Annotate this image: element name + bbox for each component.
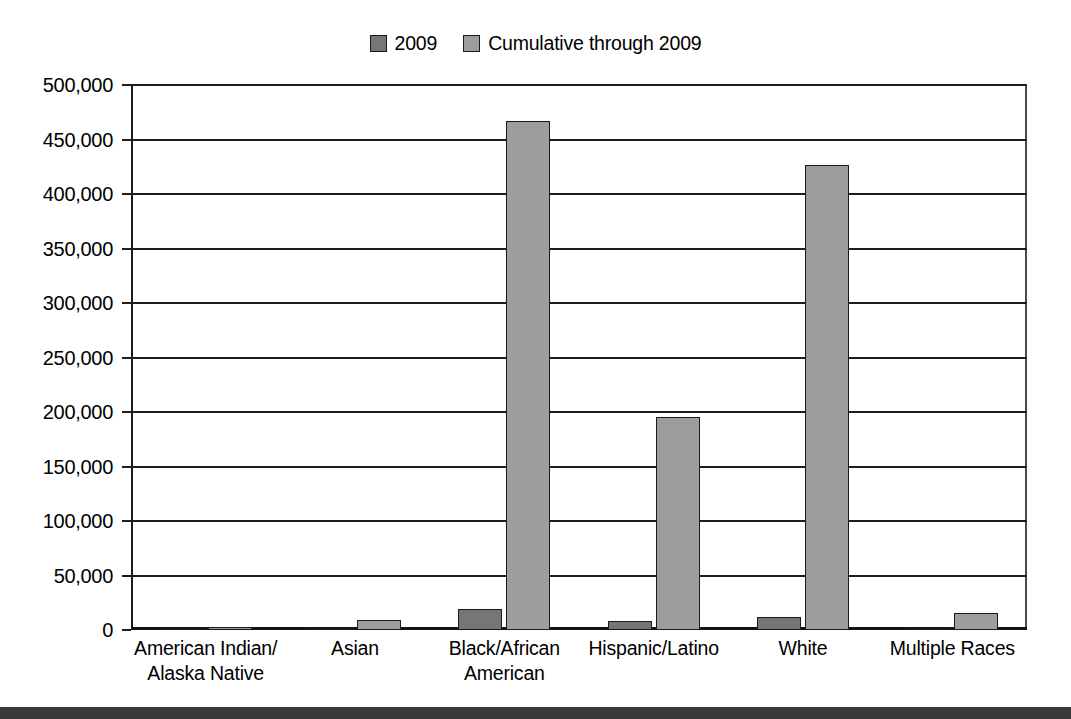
bar bbox=[757, 617, 801, 630]
y-axis-tick-mark bbox=[122, 629, 131, 631]
y-axis-tick-label: 300,000 bbox=[43, 293, 113, 313]
bar bbox=[906, 628, 950, 630]
x-axis-tick-label-line1: Multiple Races bbox=[863, 636, 1042, 661]
y-axis-tick-mark bbox=[122, 193, 131, 195]
bar bbox=[309, 628, 353, 630]
legend-label: 2009 bbox=[395, 34, 438, 53]
y-axis-tick-mark bbox=[122, 575, 131, 577]
x-axis-tick-label-line2: American bbox=[415, 661, 594, 686]
y-axis-tick-label: 150,000 bbox=[43, 457, 113, 477]
y-axis-tick-mark bbox=[122, 466, 131, 468]
bar bbox=[458, 609, 502, 630]
y-axis-tick-mark bbox=[122, 357, 131, 359]
bar bbox=[506, 121, 550, 630]
y-axis-tick-label: 250,000 bbox=[43, 348, 113, 368]
y-axis-tick-label: 450,000 bbox=[43, 130, 113, 150]
bars-layer bbox=[131, 85, 1027, 630]
legend-swatch-icon bbox=[370, 35, 387, 52]
y-axis-tick-label: 350,000 bbox=[43, 239, 113, 259]
y-axis-tick-label: 200,000 bbox=[43, 402, 113, 422]
bar bbox=[608, 621, 652, 630]
x-axis-tick-label: Multiple Races bbox=[863, 636, 1042, 661]
y-axis-tick-mark bbox=[122, 84, 131, 86]
chart-legend: 2009Cumulative through 2009 bbox=[0, 30, 1071, 56]
y-axis-tick-mark bbox=[122, 411, 131, 413]
y-axis-tick-label: 400,000 bbox=[43, 184, 113, 204]
bar-chart-figure: 2009Cumulative through 2009 500,000450,0… bbox=[0, 0, 1071, 719]
y-axis-tick-label: 500,000 bbox=[43, 75, 113, 95]
y-axis-tick-label: 50,000 bbox=[54, 566, 113, 586]
y-axis-tick-label: 0 bbox=[102, 620, 113, 640]
bar bbox=[656, 417, 700, 630]
legend-label: Cumulative through 2009 bbox=[488, 34, 701, 53]
y-axis-tick-mark bbox=[122, 520, 131, 522]
y-axis-tick-mark bbox=[122, 302, 131, 304]
bar bbox=[208, 627, 252, 630]
footer-band bbox=[0, 707, 1071, 719]
x-axis-tick-label-line2: Alaska Native bbox=[116, 661, 295, 686]
x-axis-tick-labels: American Indian/Alaska NativeAsianBlack/… bbox=[131, 636, 1027, 694]
legend-entry: Cumulative through 2009 bbox=[463, 34, 701, 53]
bar bbox=[357, 620, 401, 630]
bar bbox=[805, 165, 849, 630]
y-axis-tick-labels: 500,000450,000400,000350,000300,000250,0… bbox=[0, 85, 113, 630]
y-axis-tick-mark bbox=[122, 248, 131, 250]
bar bbox=[954, 613, 998, 630]
legend-entry: 2009 bbox=[370, 34, 438, 53]
legend-swatch-icon bbox=[463, 35, 480, 52]
y-axis-tick-label: 100,000 bbox=[43, 511, 113, 531]
y-axis-tick-mark bbox=[122, 139, 131, 141]
bar bbox=[160, 628, 204, 630]
